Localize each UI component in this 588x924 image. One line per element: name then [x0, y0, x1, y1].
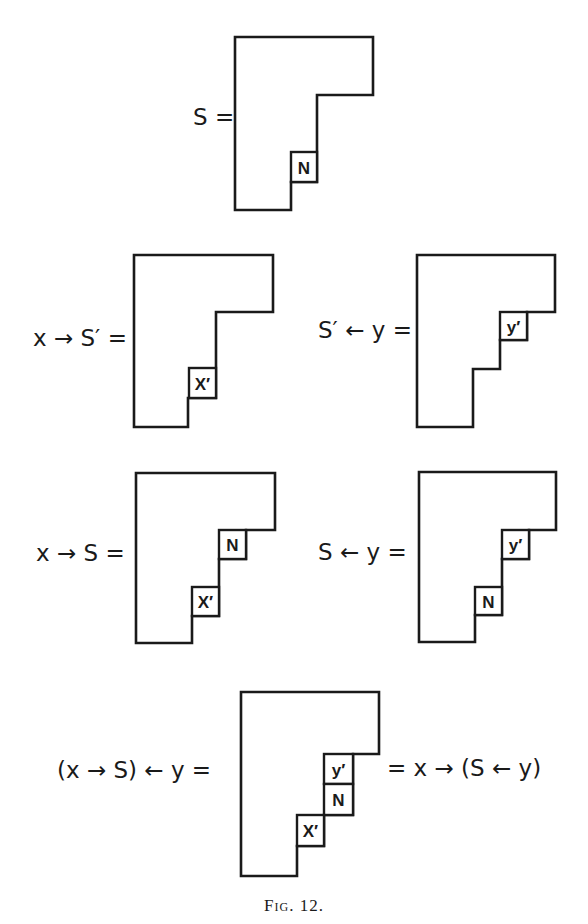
- cell-label: N: [482, 593, 494, 612]
- equation-label: S′ ← y =: [318, 317, 412, 343]
- tableau-outline: [136, 473, 275, 643]
- equation-label: (x → S) ← y =: [57, 757, 211, 783]
- cell-label: X′: [303, 822, 318, 841]
- cell-label: y′: [507, 318, 521, 337]
- figure-caption: Fig. 12.: [264, 896, 324, 915]
- equation-label: S =: [193, 104, 234, 130]
- diagram-S-insert-y: S ← y =y′N: [318, 472, 556, 642]
- equation-label: S ← y =: [318, 539, 407, 565]
- young-tableau-diagrams: S =Nx → S′ =X′S′ ← y =y′x → S =NX′S ← y …: [33, 37, 556, 876]
- cell-label: N: [332, 791, 344, 810]
- diagram-S: S =N: [193, 37, 373, 210]
- tableau-outline: [241, 692, 379, 876]
- diagram-S-prime-insert-y: S′ ← y =y′: [318, 255, 555, 427]
- cell-label: X′: [195, 375, 210, 394]
- equation-label: x → S′ =: [33, 325, 127, 351]
- cell-label: N: [298, 159, 310, 178]
- diagram-x-insert-S: x → S =NX′: [36, 473, 275, 643]
- tableau-outline: [417, 255, 555, 427]
- cell-label: N: [226, 536, 238, 555]
- cell-label: y′: [332, 761, 346, 780]
- equation-label: x → S =: [36, 540, 125, 566]
- equation-right-label: = x → (S ← y): [387, 755, 541, 781]
- cell-label: y′: [509, 536, 523, 555]
- cell-label: X′: [198, 593, 213, 612]
- tableau-outline: [134, 255, 273, 427]
- diagram-combined: (x → S) ← y =y′NX′= x → (S ← y): [57, 692, 541, 876]
- tableau-outline: [419, 472, 556, 642]
- diagram-x-insert-S-prime: x → S′ =X′: [33, 255, 273, 427]
- figure-canvas: S =Nx → S′ =X′S′ ← y =y′x → S =NX′S ← y …: [0, 0, 588, 924]
- tableau-outline: [235, 37, 373, 210]
